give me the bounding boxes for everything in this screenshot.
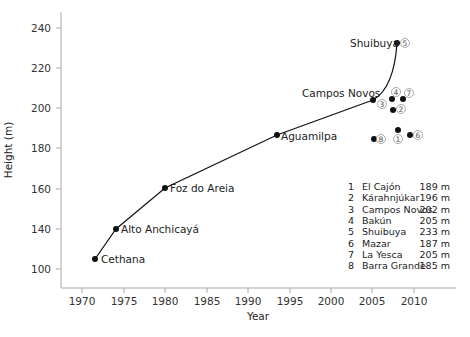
- legend-number: 6: [348, 238, 354, 249]
- number-badge-label: 4: [394, 88, 399, 97]
- number-badge-label: 5: [403, 39, 408, 48]
- legend-height: 233 m: [420, 226, 450, 237]
- number-badge-label: 8: [379, 135, 384, 144]
- legend-name: La Yesca: [362, 249, 403, 260]
- x-tick-label: 1970: [69, 295, 96, 307]
- y-tick-label: 140: [31, 223, 51, 235]
- point-label: Aguamilpa: [281, 130, 337, 142]
- point-label: Shuibuya: [350, 37, 399, 49]
- x-tick-label: 1995: [277, 295, 304, 307]
- x-axis-label: Year: [246, 310, 270, 322]
- legend-name: Barra Grande: [362, 260, 426, 271]
- number-badge-label: 2: [399, 105, 404, 114]
- y-tick-label: 240: [31, 22, 51, 34]
- point-label: Campos Novos: [302, 87, 380, 99]
- data-point: [113, 226, 119, 232]
- legend-name: Shuibuya: [362, 226, 406, 237]
- y-axis-label: Height (m): [2, 122, 14, 178]
- data-point: [92, 256, 98, 262]
- point-label: Cethana: [101, 253, 145, 265]
- x-tick-label: 1975: [111, 295, 138, 307]
- legend-number: 8: [348, 260, 354, 271]
- legend-height: 187 m: [420, 238, 450, 249]
- legend-name: Mazar: [362, 238, 391, 249]
- legend-number: 5: [348, 226, 354, 237]
- number-badge-label: 3: [380, 100, 385, 109]
- data-point: [390, 107, 396, 113]
- legend-height: 189 m: [420, 181, 450, 192]
- x-tick-label: 2005: [359, 295, 386, 307]
- data-point: [274, 132, 280, 138]
- data-point: [389, 96, 395, 102]
- legend-height: 205 m: [420, 215, 450, 226]
- x-tick-label: 2000: [318, 295, 345, 307]
- y-tick-label: 180: [31, 142, 51, 154]
- number-badge-label: 1: [396, 135, 401, 144]
- legend-number: 3: [348, 204, 354, 215]
- legend-height: 205 m: [420, 249, 450, 260]
- number-badge-label: 6: [416, 131, 421, 140]
- y-tick-label: 220: [31, 62, 51, 74]
- point-label: Alto Anchicayá: [121, 223, 199, 235]
- data-point: [400, 96, 406, 102]
- number-badge-label: 7: [407, 89, 412, 98]
- axes: [61, 12, 456, 288]
- point-label: Foz do Areia: [170, 182, 234, 194]
- data-point: [371, 136, 377, 142]
- legend-number: 1: [348, 181, 354, 192]
- x-tick-label: 1985: [194, 295, 221, 307]
- y-ticks: 100140160180200220240: [31, 22, 61, 275]
- data-point: [395, 127, 401, 133]
- legend-number: 7: [348, 249, 354, 260]
- legend-height: 202 m: [420, 204, 450, 215]
- y-tick-label: 200: [31, 102, 51, 114]
- y-tick-label: 100: [31, 263, 51, 275]
- y-tick-label: 160: [31, 183, 51, 195]
- legend-name: El Cajón: [362, 181, 401, 192]
- legend-name: Bakún: [362, 215, 392, 226]
- legend-height: 185 m: [420, 260, 450, 271]
- x-tick-label: 2010: [401, 295, 428, 307]
- legend-height: 196 m: [420, 192, 450, 203]
- data-point: [162, 185, 168, 191]
- legend-number: 4: [348, 215, 354, 226]
- legend-number: 2: [348, 192, 354, 203]
- legend: 1El Cajón189 m2Kárahnjúkar196 m3Campos N…: [348, 181, 450, 271]
- x-tick-label: 1990: [235, 295, 262, 307]
- data-point: [407, 132, 413, 138]
- dam-height-chart: 100140160180200220240 197019751980198519…: [0, 0, 470, 337]
- x-tick-label: 1980: [152, 295, 179, 307]
- x-ticks: 197019751980198519901995200020052010: [69, 288, 428, 307]
- legend-name: Kárahnjúkar: [362, 192, 419, 203]
